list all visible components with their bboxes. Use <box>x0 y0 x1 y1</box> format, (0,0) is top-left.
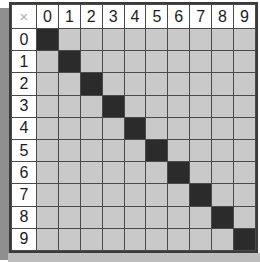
row-header-1[interactable]: 1 <box>12 51 37 73</box>
column-header-9[interactable]: 9 <box>234 5 256 29</box>
cell-6-9[interactable] <box>234 162 256 184</box>
cell-1-2[interactable] <box>80 51 102 73</box>
cell-6-0[interactable] <box>37 162 59 184</box>
column-header-2[interactable]: 2 <box>80 5 102 29</box>
cell-7-0[interactable] <box>37 184 59 206</box>
cell-8-4[interactable] <box>124 206 146 228</box>
column-header-3[interactable]: 3 <box>102 5 124 29</box>
row-header-6[interactable]: 6 <box>12 162 37 184</box>
cell-9-4[interactable] <box>124 228 146 250</box>
cell-6-5[interactable] <box>146 162 168 184</box>
cell-9-9[interactable] <box>234 228 256 250</box>
cell-3-9[interactable] <box>234 95 256 117</box>
column-header-1[interactable]: 1 <box>58 5 80 29</box>
cell-3-4[interactable] <box>124 95 146 117</box>
cell-7-7[interactable] <box>190 184 212 206</box>
cell-1-3[interactable] <box>102 51 124 73</box>
cell-3-1[interactable] <box>58 95 80 117</box>
cell-1-4[interactable] <box>124 51 146 73</box>
cell-5-3[interactable] <box>102 139 124 161</box>
cell-0-7[interactable] <box>190 29 212 51</box>
cell-9-2[interactable] <box>80 228 102 250</box>
cell-2-8[interactable] <box>212 73 234 95</box>
cell-2-1[interactable] <box>58 73 80 95</box>
cell-7-5[interactable] <box>146 184 168 206</box>
cell-9-8[interactable] <box>212 228 234 250</box>
column-header-6[interactable]: 6 <box>168 5 190 29</box>
cell-9-6[interactable] <box>168 228 190 250</box>
row-header-5[interactable]: 5 <box>12 139 37 161</box>
row-header-8[interactable]: 8 <box>12 206 37 228</box>
cell-4-1[interactable] <box>58 117 80 139</box>
cell-7-4[interactable] <box>124 184 146 206</box>
cell-2-0[interactable] <box>37 73 59 95</box>
cell-2-9[interactable] <box>234 73 256 95</box>
cell-1-6[interactable] <box>168 51 190 73</box>
cell-1-8[interactable] <box>212 51 234 73</box>
row-header-0[interactable]: 0 <box>12 29 37 51</box>
row-header-2[interactable]: 2 <box>12 73 37 95</box>
cell-0-3[interactable] <box>102 29 124 51</box>
cell-4-8[interactable] <box>212 117 234 139</box>
cell-1-9[interactable] <box>234 51 256 73</box>
cell-6-4[interactable] <box>124 162 146 184</box>
cell-0-2[interactable] <box>80 29 102 51</box>
cell-9-1[interactable] <box>58 228 80 250</box>
cell-0-6[interactable] <box>168 29 190 51</box>
column-header-5[interactable]: 5 <box>146 5 168 29</box>
cell-6-6[interactable] <box>168 162 190 184</box>
cell-3-2[interactable] <box>80 95 102 117</box>
cell-0-0[interactable] <box>37 29 59 51</box>
cell-8-1[interactable] <box>58 206 80 228</box>
cell-9-5[interactable] <box>146 228 168 250</box>
cell-2-7[interactable] <box>190 73 212 95</box>
cell-7-6[interactable] <box>168 184 190 206</box>
cell-3-7[interactable] <box>190 95 212 117</box>
cell-4-4[interactable] <box>124 117 146 139</box>
cell-3-3[interactable] <box>102 95 124 117</box>
cell-5-7[interactable] <box>190 139 212 161</box>
cell-0-4[interactable] <box>124 29 146 51</box>
column-header-0[interactable]: 0 <box>37 5 59 29</box>
cell-4-2[interactable] <box>80 117 102 139</box>
cell-1-7[interactable] <box>190 51 212 73</box>
column-header-7[interactable]: 7 <box>190 5 212 29</box>
cell-1-1[interactable] <box>58 51 80 73</box>
cell-4-9[interactable] <box>234 117 256 139</box>
cell-6-1[interactable] <box>58 162 80 184</box>
cell-4-6[interactable] <box>168 117 190 139</box>
cell-2-4[interactable] <box>124 73 146 95</box>
cell-4-0[interactable] <box>37 117 59 139</box>
cell-8-7[interactable] <box>190 206 212 228</box>
cell-7-9[interactable] <box>234 184 256 206</box>
cell-6-7[interactable] <box>190 162 212 184</box>
cell-3-8[interactable] <box>212 95 234 117</box>
cell-5-0[interactable] <box>37 139 59 161</box>
cell-7-8[interactable] <box>212 184 234 206</box>
column-header-4[interactable]: 4 <box>124 5 146 29</box>
cell-3-6[interactable] <box>168 95 190 117</box>
column-header-8[interactable]: 8 <box>212 5 234 29</box>
cell-0-9[interactable] <box>234 29 256 51</box>
row-header-4[interactable]: 4 <box>12 117 37 139</box>
cell-2-3[interactable] <box>102 73 124 95</box>
cell-8-9[interactable] <box>234 206 256 228</box>
cell-5-1[interactable] <box>58 139 80 161</box>
cell-8-2[interactable] <box>80 206 102 228</box>
cell-2-6[interactable] <box>168 73 190 95</box>
cell-8-6[interactable] <box>168 206 190 228</box>
cell-8-0[interactable] <box>37 206 59 228</box>
row-header-7[interactable]: 7 <box>12 184 37 206</box>
cell-5-5[interactable] <box>146 139 168 161</box>
cell-6-3[interactable] <box>102 162 124 184</box>
cell-4-3[interactable] <box>102 117 124 139</box>
cell-5-4[interactable] <box>124 139 146 161</box>
cell-5-6[interactable] <box>168 139 190 161</box>
cell-7-2[interactable] <box>80 184 102 206</box>
cell-5-9[interactable] <box>234 139 256 161</box>
cell-0-8[interactable] <box>212 29 234 51</box>
cell-2-2[interactable] <box>80 73 102 95</box>
cell-6-8[interactable] <box>212 162 234 184</box>
cell-7-1[interactable] <box>58 184 80 206</box>
cell-0-5[interactable] <box>146 29 168 51</box>
